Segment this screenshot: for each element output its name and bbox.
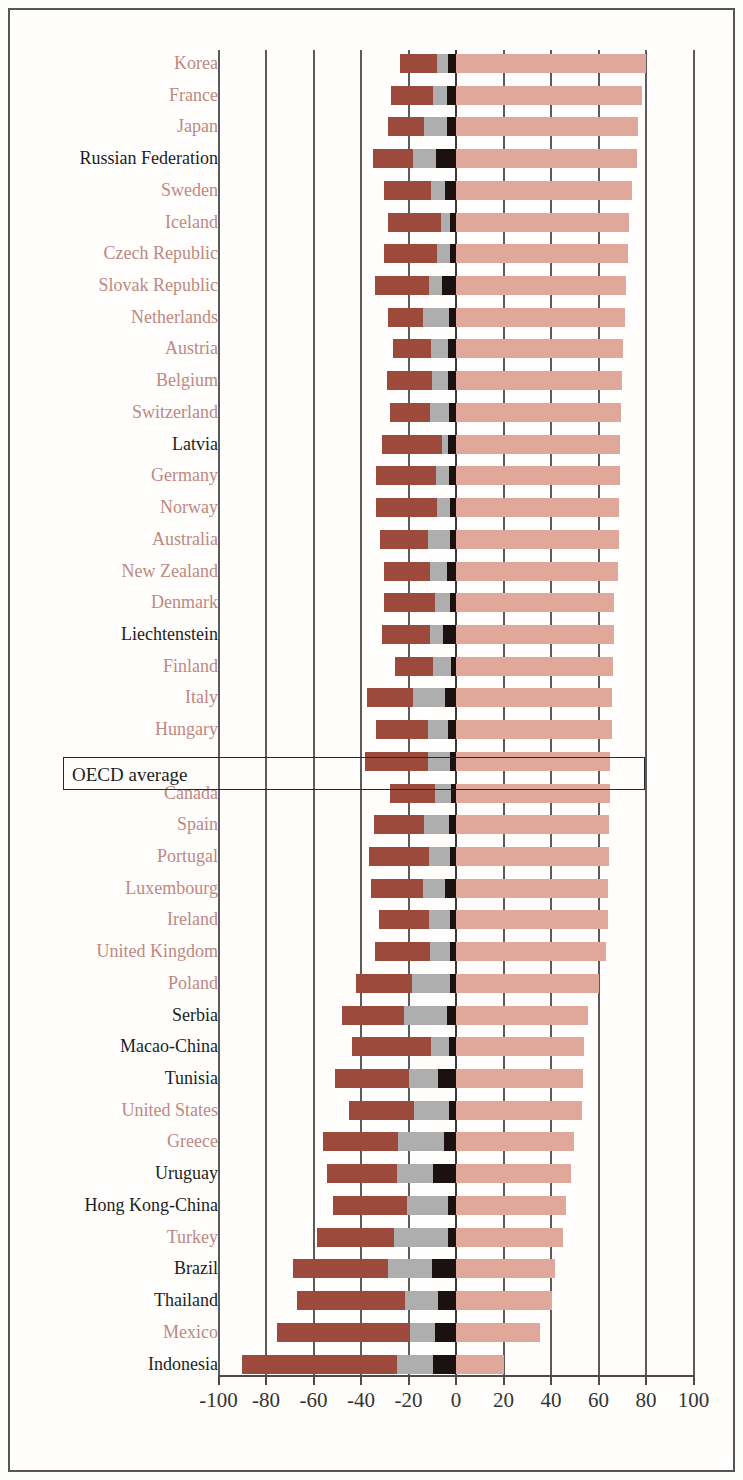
bar-segment-negative-outer <box>293 1259 388 1278</box>
bar-segment-negative-inner <box>447 562 457 581</box>
bar-segment-negative-outer <box>380 530 428 549</box>
bar-segment-negative-outer <box>388 213 440 232</box>
bar-segment-positive <box>456 1132 574 1151</box>
bar-segment-positive <box>456 1259 555 1278</box>
category-label: Brazil <box>8 1258 218 1278</box>
bar-segment-negative-mid <box>409 1069 439 1088</box>
bar-segment-negative-inner <box>445 879 456 898</box>
chart-row: Thailand <box>0 1291 743 1323</box>
chart-row: Poland <box>0 974 743 1006</box>
chart-row: Korea <box>0 54 743 86</box>
chart-row: Hungary <box>0 720 743 752</box>
category-label: Macao-China <box>8 1036 218 1056</box>
chart-row: Denmark <box>0 593 743 625</box>
bar-segment-negative-inner <box>449 466 456 485</box>
bar-segment-negative-outer <box>374 815 424 834</box>
category-label: Japan <box>8 116 218 136</box>
bar-segment-negative-outer <box>349 1101 414 1120</box>
category-label: France <box>8 85 218 105</box>
bar-segment-negative-mid <box>407 1196 447 1215</box>
chart-row: New Zealand <box>0 562 743 594</box>
bar-segment-positive <box>456 86 642 105</box>
bar-segment-negative-inner <box>448 54 456 73</box>
bar-segment-negative-outer <box>367 688 413 707</box>
bar-segment-negative-inner <box>442 276 456 295</box>
category-label: Serbia <box>8 1005 218 1025</box>
bar-segment-positive <box>456 1196 566 1215</box>
category-label: Tunisia <box>8 1068 218 1088</box>
bar-segment-negative-outer <box>342 1006 404 1025</box>
bar-segment-positive <box>456 498 619 517</box>
chart-row: Macao-China <box>0 1037 743 1069</box>
bar-segment-positive <box>456 117 638 136</box>
category-label: United States <box>8 1100 218 1120</box>
chart-row: Liechtenstein <box>0 625 743 657</box>
bar-segment-negative-mid <box>429 276 442 295</box>
category-label: Hong Kong-China <box>8 1195 218 1215</box>
bar-segment-negative-outer <box>297 1291 405 1310</box>
bar-segment-negative-inner <box>449 1101 456 1120</box>
bar-segment-negative-inner <box>449 1037 456 1056</box>
bar-segment-positive <box>456 974 599 993</box>
chart-row: Russian Federation <box>0 149 743 181</box>
chart-page: -100-80-60-40-20020406080100KoreaFranceJ… <box>0 0 743 1480</box>
bar-segment-negative-mid <box>388 1259 432 1278</box>
bar-segment-positive <box>456 1323 540 1342</box>
category-label: Latvia <box>8 434 218 454</box>
bar-segment-negative-mid <box>435 593 450 612</box>
bar-segment-negative-inner <box>432 1259 456 1278</box>
diverging-stacked-bar-chart: -100-80-60-40-20020406080100KoreaFranceJ… <box>0 0 743 1480</box>
bar-segment-negative-mid <box>394 1228 447 1247</box>
bar-segment-negative-mid <box>431 339 448 358</box>
bar-segment-positive <box>456 530 619 549</box>
category-label: Portugal <box>8 846 218 866</box>
bar-segment-positive <box>456 562 618 581</box>
bar-segment-negative-inner <box>448 371 456 390</box>
bar-segment-positive <box>456 54 646 73</box>
category-label: New Zealand <box>8 561 218 581</box>
bar-segment-negative-outer <box>317 1228 394 1247</box>
bar-segment-negative-mid <box>412 974 450 993</box>
chart-row: Italy <box>0 688 743 720</box>
chart-row: Austria <box>0 339 743 371</box>
bar-segment-positive <box>456 1037 584 1056</box>
bar-segment-negative-outer <box>352 1037 432 1056</box>
bar-segment-negative-mid <box>413 149 436 168</box>
category-label: Uruguay <box>8 1163 218 1183</box>
bar-segment-negative-outer <box>242 1355 396 1374</box>
chart-row: Luxembourg <box>0 879 743 911</box>
bar-segment-negative-inner <box>449 308 456 327</box>
bar-segment-negative-inner <box>445 688 456 707</box>
chart-row: Uruguay <box>0 1164 743 1196</box>
bar-segment-negative-mid <box>428 530 451 549</box>
bar-segment-positive <box>456 1101 582 1120</box>
bar-segment-negative-mid <box>404 1006 447 1025</box>
bar-segment-negative-inner <box>448 720 456 739</box>
category-label: Iceland <box>8 212 218 232</box>
bar-segment-negative-mid <box>398 1132 444 1151</box>
bar-segment-negative-inner <box>433 1355 456 1374</box>
bar-segment-negative-inner <box>448 1196 456 1215</box>
bar-segment-negative-mid <box>431 181 445 200</box>
bar-segment-positive <box>456 815 609 834</box>
category-label: Germany <box>8 465 218 485</box>
bar-segment-negative-inner <box>438 1069 456 1088</box>
bar-segment-negative-mid <box>437 498 450 517</box>
chart-row: Iceland <box>0 213 743 245</box>
bar-segment-positive <box>456 879 608 898</box>
bar-segment-negative-outer <box>382 435 441 454</box>
bar-segment-positive <box>456 339 623 358</box>
category-label: Norway <box>8 497 218 517</box>
bar-segment-negative-inner <box>448 1228 456 1247</box>
oecd-average-label: OECD average <box>72 764 188 786</box>
bar-segment-negative-mid <box>430 942 450 961</box>
bar-segment-negative-inner <box>433 1164 456 1183</box>
chart-row: Latvia <box>0 435 743 467</box>
bar-segment-negative-outer <box>376 466 435 485</box>
bar-segment-positive <box>456 593 614 612</box>
bar-segment-negative-outer <box>356 974 412 993</box>
bar-segment-negative-outer <box>277 1323 410 1342</box>
bar-segment-negative-mid <box>436 466 449 485</box>
bar-segment-negative-mid <box>429 847 450 866</box>
chart-row: Tunisia <box>0 1069 743 1101</box>
